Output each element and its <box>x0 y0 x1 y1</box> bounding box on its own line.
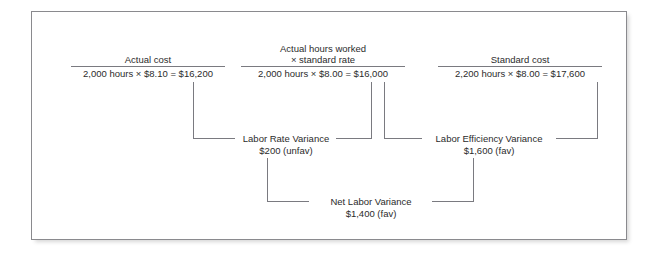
variance-labor-efficiency-title: Labor Efficiency Variance <box>421 133 557 145</box>
column-actual-hours-numerator-line2: × standard rate <box>241 54 405 65</box>
column-actual-hours-rule <box>241 66 405 67</box>
variance-labor-rate: Labor Rate Variance $200 (unfav) <box>235 133 337 157</box>
column-standard-cost-numerator: Standard cost <box>438 54 602 65</box>
variance-labor-efficiency: Labor Efficiency Variance $1,600 (fav) <box>421 133 557 157</box>
connector-actual-cost-horizontal <box>193 138 235 139</box>
connector-actual-hours-right-horizontal <box>384 138 422 139</box>
column-actual-cost-rule <box>71 66 225 67</box>
connector-efficiency-to-net-vertical <box>473 158 474 201</box>
connector-actual-hours-left-vertical <box>371 82 372 138</box>
column-actual-cost: Actual cost 2,000 hours × $8.10 = $16,20… <box>71 54 225 79</box>
column-standard-cost-rule <box>438 66 602 67</box>
column-standard-cost-denominator: 2,200 hours × $8.00 = $17,600 <box>438 68 602 79</box>
connector-actual-cost-vertical <box>193 82 194 138</box>
connector-standard-cost-horizontal <box>556 138 598 139</box>
variance-labor-efficiency-amount: $1,600 (fav) <box>421 145 557 157</box>
variance-labor-rate-title: Labor Rate Variance <box>235 133 337 145</box>
connector-standard-cost-vertical <box>597 82 598 138</box>
connector-rate-to-net-horizontal <box>267 201 309 202</box>
column-actual-cost-numerator: Actual cost <box>71 54 225 65</box>
connector-rate-to-net-vertical <box>267 158 268 201</box>
column-actual-hours-denominator: 2,000 hours × $8.00 = $16,000 <box>241 68 405 79</box>
variance-labor-rate-amount: $200 (unfav) <box>235 145 337 157</box>
connector-efficiency-to-net-horizontal <box>432 201 474 202</box>
column-standard-cost: Standard cost 2,200 hours × $8.00 = $17,… <box>438 54 602 79</box>
column-actual-cost-denominator: 2,000 hours × $8.10 = $16,200 <box>71 68 225 79</box>
diagram-panel: Actual cost 2,000 hours × $8.10 = $16,20… <box>31 11 627 240</box>
column-actual-hours-at-standard-rate: Actual hours worked × standard rate 2,00… <box>241 43 405 79</box>
variance-net-labor: Net Labor Variance $1,400 (fav) <box>309 196 433 220</box>
connector-actual-hours-right-vertical <box>384 82 385 138</box>
variance-net-labor-amount: $1,400 (fav) <box>309 208 433 220</box>
column-actual-hours-numerator-line1: Actual hours worked <box>241 43 405 54</box>
connector-actual-hours-left-horizontal <box>336 138 372 139</box>
variance-net-labor-title: Net Labor Variance <box>309 196 433 208</box>
